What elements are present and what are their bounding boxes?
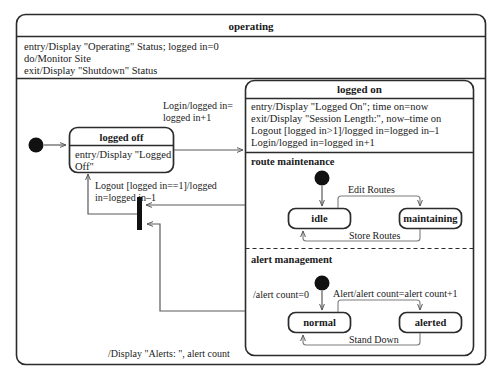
- transition-alert-label: Alert/alert count=alert count+1: [333, 288, 458, 300]
- state-logged-off-body-line-2: Off": [75, 161, 94, 173]
- join-bar: [137, 197, 142, 230]
- state-idle-shape: [289, 209, 351, 229]
- diagram-vector-layer: [0, 0, 501, 379]
- transition-edit-routes-label: Edit Routes: [348, 184, 395, 196]
- state-maintaining-title: maintaining: [400, 213, 461, 225]
- state-logged-off-body-line-1: entry/Display "Logged: [75, 149, 171, 161]
- state-operating-body-line-2: do/Monitor Site: [24, 53, 91, 65]
- transition-alert-line: [338, 300, 420, 312]
- initial-pseudostate-route-maintenance: [315, 171, 330, 186]
- state-maintaining-shape: [400, 209, 462, 229]
- transition-display-alerts-line: [147, 224, 245, 311]
- initial-pseudostate-alert-management: [315, 276, 330, 291]
- state-operating-shape: [17, 15, 486, 365]
- transition-store-routes-line: [303, 229, 420, 241]
- state-logged-on-body-line-4: Login/logged in=logged in+1: [251, 137, 375, 149]
- transition-login-label-line-2: logged in+1: [163, 112, 211, 124]
- region-route-maintenance-title: route maintenance: [251, 156, 335, 168]
- state-alerted-title: alerted: [400, 317, 461, 329]
- state-logged-off-shape: [70, 128, 174, 173]
- transition-logout-label-line-1: Logout [logged in==1]/logged: [95, 180, 217, 192]
- transition-stand-down-label: Stand Down: [349, 334, 399, 346]
- state-logged-off-title: logged off: [70, 132, 173, 144]
- state-normal-shape: [289, 313, 351, 333]
- state-operating-body-line-3: exit/Display "Shutdown" Status: [24, 65, 157, 77]
- state-alerted-shape: [400, 313, 462, 333]
- state-logged-on-body-line-3: Logout [logged in>1]/logged in=logged in…: [251, 125, 440, 137]
- transition-logout-line: [88, 174, 137, 214]
- state-diagram-canvas: operating entry/Display "Operating" Stat…: [0, 0, 501, 379]
- initial-pseudostate-operating: [29, 138, 44, 153]
- state-logged-on-body-line-1: entry/Display "Logged On"; time on=now: [251, 101, 428, 113]
- state-normal-title: normal: [289, 317, 350, 329]
- transition-store-routes-label: Store Routes: [349, 230, 400, 242]
- state-idle-title: idle: [289, 213, 350, 225]
- transition-display-alerts-label: /Display "Alerts: ", alert count: [108, 348, 230, 360]
- state-operating-title: operating: [17, 21, 485, 33]
- region-alert-management-title: alert management: [251, 254, 332, 266]
- transition-init-alert-count-label: /alert count=0: [253, 289, 309, 301]
- state-logged-on-shape: [246, 81, 474, 356]
- state-logged-on-body-line-2: exit/Display "Session Length:", now–time…: [251, 113, 441, 125]
- transition-logout-label-line-2: in=logged in–1: [95, 192, 156, 204]
- transition-stand-down-line: [303, 333, 420, 345]
- state-logged-on-title: logged on: [246, 84, 473, 96]
- transition-edit-routes-line: [338, 196, 420, 208]
- state-operating-body-line-1: entry/Display "Operating" Status; logged…: [24, 41, 219, 53]
- transition-login-label-line-1: Login/logged in=: [163, 100, 233, 112]
